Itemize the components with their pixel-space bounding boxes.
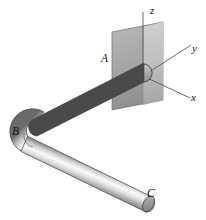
bent-pipe-cantilever-figure: z y x A B C [0, 0, 206, 220]
point-label-a: A [101, 53, 108, 65]
pipe-body-BC [19, 136, 155, 212]
y-axis-label: y [192, 43, 197, 54]
figure-canvas [0, 0, 206, 220]
point-label-c: C [147, 188, 155, 200]
wall-plate-face-right [143, 22, 163, 105]
z-axis-label: z [150, 5, 154, 16]
x-axis-label: x [191, 92, 196, 103]
point-label-b: B [12, 126, 19, 138]
pipe-segment-BC [19, 136, 157, 214]
